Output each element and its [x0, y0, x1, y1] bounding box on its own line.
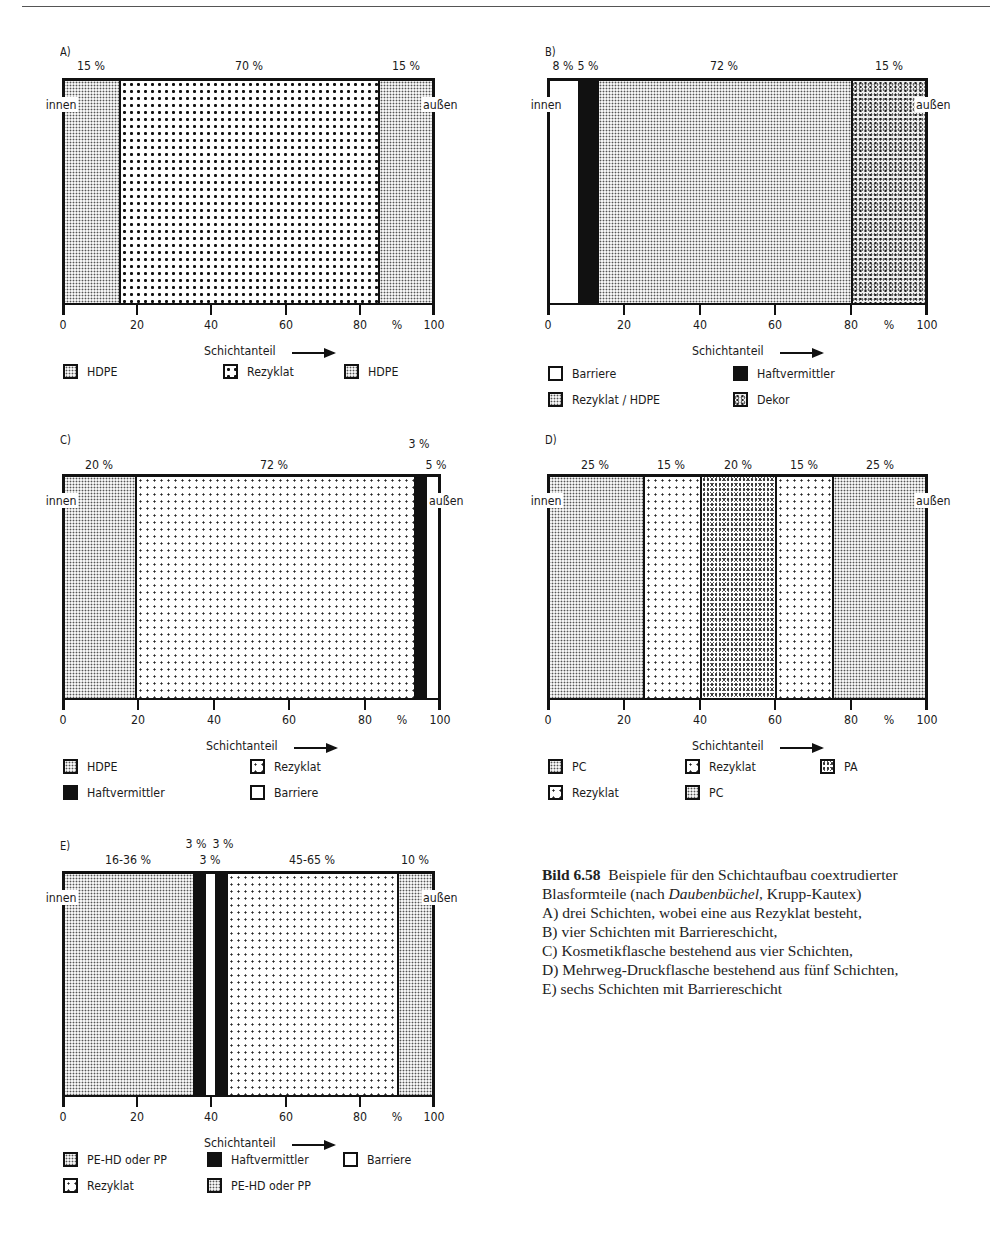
layer-bar — [63, 474, 440, 700]
layer-percent-label: 20 % — [85, 457, 113, 472]
axis-tick-label: 40 — [693, 317, 707, 332]
layer-percent-label: 16-36 % — [105, 852, 151, 867]
layer-percent-label: 5 % — [426, 457, 447, 472]
axis-tick-label: 60 — [282, 712, 296, 727]
legend-item: Haftvermittler — [207, 1152, 322, 1167]
legend-item: Dekor — [733, 392, 795, 407]
outer-wall — [432, 78, 435, 315]
axis-tick-label: 20 — [617, 712, 631, 727]
axis-unit: % — [884, 317, 895, 332]
inner-label: innen — [44, 97, 78, 112]
axis-title: Schichtanteil — [204, 1135, 276, 1150]
axis-tick-label: 0 — [59, 1109, 66, 1124]
layer-percent-label: 8 % — [553, 58, 574, 73]
inner-label: innen — [44, 493, 78, 508]
axis-tick — [623, 700, 625, 710]
layer-pe-hd-oder-pp — [397, 874, 434, 1095]
legend-swatch-icon — [733, 366, 748, 381]
axis-tick-label: 20 — [130, 317, 144, 332]
axis-tick-label: 60 — [279, 317, 293, 332]
figure-number: Bild 6.58 — [542, 866, 601, 883]
legend-label: Rezyklat — [247, 364, 294, 379]
axis-arrow-icon — [294, 747, 336, 749]
axis-tick-label: 100 — [916, 317, 937, 332]
axis-tick — [210, 1097, 212, 1107]
outer-label: außen — [914, 97, 952, 112]
legend-item: Barriere — [250, 785, 326, 800]
legend-label: Barriere — [572, 366, 616, 381]
axis-tick — [285, 1097, 287, 1107]
axis-tick — [285, 305, 287, 315]
axis-tick — [774, 305, 776, 315]
legend-label: PC — [572, 759, 586, 774]
outer-label: außen — [427, 493, 465, 508]
legend-item: PE-HD oder PP — [63, 1152, 181, 1167]
layer-percent-label: 15 % — [657, 457, 685, 472]
legend-label: Haftvermittler — [231, 1152, 309, 1167]
legend-label: Rezyklat — [274, 759, 321, 774]
axis-tick — [62, 305, 64, 315]
layer-hdpe — [378, 81, 434, 303]
legend-swatch-icon — [63, 785, 78, 800]
axis-tick — [213, 700, 215, 710]
legend-swatch-icon — [223, 364, 238, 379]
legend-label: HDPE — [87, 364, 117, 379]
axis-tick-label: 80 — [353, 317, 367, 332]
outer-wall — [432, 871, 435, 1107]
layer-hdpe — [63, 477, 135, 698]
legend-swatch-icon — [207, 1152, 222, 1167]
legend-swatch-icon — [820, 759, 835, 774]
axis-tick-label: 100 — [916, 712, 937, 727]
layer-percent-label: 72 % — [260, 457, 288, 472]
layer-rezyklat — [135, 477, 414, 698]
legend-label: Barriere — [274, 785, 318, 800]
legend-item: Rezyklat — [685, 759, 764, 774]
layer-bar — [63, 78, 434, 305]
axis-tick-label: 100 — [423, 1109, 444, 1124]
legend-item: Rezyklat — [223, 364, 302, 379]
page-header-rule — [22, 6, 990, 7]
legend-swatch-icon — [685, 785, 700, 800]
axis-tick-label: 40 — [204, 317, 218, 332]
layer-percent-label: 15 % — [875, 58, 903, 73]
layer-hdpe — [63, 81, 119, 303]
legend-swatch-icon — [207, 1178, 222, 1193]
axis-tick — [433, 305, 435, 315]
layer-percent-label: 15 % — [790, 457, 818, 472]
layer-percent-label: 15 % — [392, 58, 420, 73]
axis-tick-label: 80 — [358, 712, 372, 727]
legend-label: Rezyklat — [572, 785, 619, 800]
axis-tick — [926, 305, 928, 315]
legend-swatch-icon — [250, 785, 265, 800]
legend-label: PA — [844, 759, 858, 774]
layer-percent-label: 3 % — [186, 836, 207, 851]
chart-title: C) — [60, 432, 71, 447]
outer-wall — [438, 474, 441, 710]
legend-label: Haftvermittler — [87, 785, 165, 800]
layer-haftvermittler — [414, 477, 425, 698]
axis-unit: % — [397, 712, 408, 727]
layer-percent-label: 25 % — [581, 457, 609, 472]
layer-pa — [700, 477, 776, 698]
legend-swatch-icon — [63, 1152, 78, 1167]
legend-item: HDPE — [344, 364, 404, 379]
caption-text-end: , Krupp-Kautex) — [759, 885, 861, 902]
chart-title: B) — [545, 44, 556, 59]
layer-percent-label: 72 % — [710, 58, 738, 73]
inner-wall — [62, 474, 65, 710]
layer-rezyklat — [119, 81, 379, 303]
axis-tick-label: 0 — [59, 317, 66, 332]
axis-tick — [699, 700, 701, 710]
legend-label: HDPE — [368, 364, 398, 379]
axis-title: Schichtanteil — [692, 343, 764, 358]
legend-swatch-icon — [548, 392, 563, 407]
layer-percent-label: 5 % — [577, 58, 598, 73]
axis-tick-label: 80 — [844, 317, 858, 332]
legend-item: HDPE — [63, 364, 123, 379]
axis-arrow-icon — [780, 747, 822, 749]
caption-author: Daubenbüchel — [669, 885, 759, 902]
layer-percent-label: 3 % — [409, 436, 430, 451]
legend-item: PE-HD oder PP — [207, 1178, 325, 1193]
axis-tick-label: 0 — [544, 317, 551, 332]
layer-pc — [548, 477, 643, 698]
